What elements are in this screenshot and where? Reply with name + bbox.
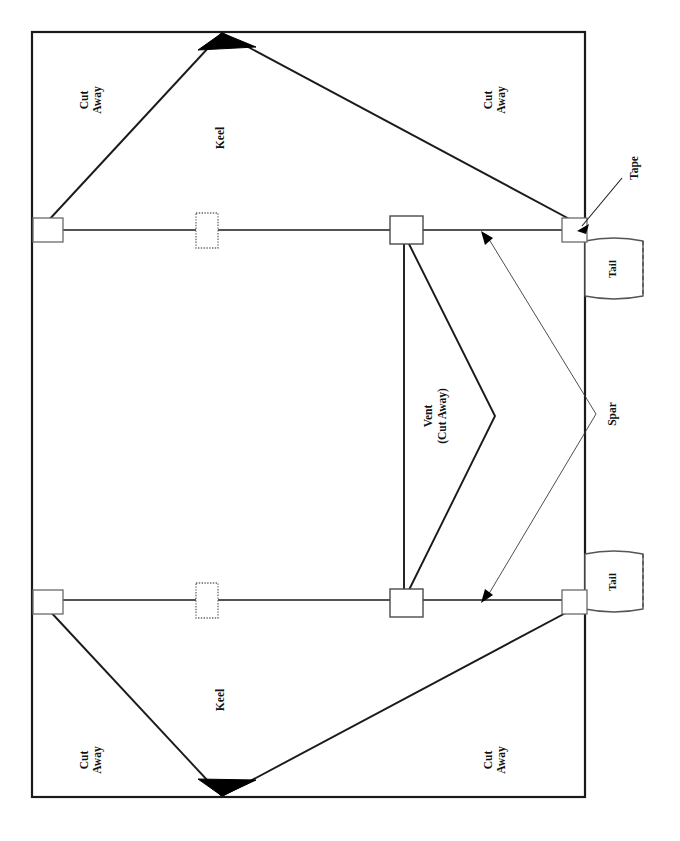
tail-bottom-text: Tail (606, 573, 618, 591)
vent-text-line2: (Cut Away) (436, 388, 449, 444)
page-background (0, 0, 680, 841)
cut-away-top-right-line2: Away (495, 86, 508, 114)
label-keel-bottom: Keel (214, 689, 226, 711)
tape-marker-bottom-right (562, 590, 587, 614)
tape-marker-top-left (33, 218, 63, 242)
kite-plan-diagram: Cut Away Cut Away Cut Away Cut Away Keel… (0, 0, 680, 841)
label-spar: Spar (606, 402, 619, 426)
label-tail-top: Tail (606, 260, 618, 278)
tail-top-text: Tail (606, 260, 618, 278)
keel-top-text: Keel (214, 127, 226, 149)
tape-marker-top-mid (196, 213, 218, 248)
tape-marker-bottom-left (33, 590, 63, 614)
spar-text: Spar (606, 402, 619, 426)
cut-away-bottom-right-line2: Away (495, 746, 508, 774)
tape-marker-bottom-vent (390, 589, 423, 617)
tape-text: Tape (628, 156, 641, 180)
keel-bottom-text: Keel (214, 689, 226, 711)
cut-away-bottom-left-line2: Away (91, 746, 104, 774)
vent-text-line1: Vent (422, 405, 434, 428)
label-keel-top: Keel (214, 127, 226, 149)
cut-away-bottom-left-line1: Cut (78, 751, 90, 770)
cut-away-bottom-right-line1: Cut (482, 751, 494, 770)
tape-marker-top-vent (390, 216, 423, 244)
plan-drawing-canvas: Cut Away Cut Away Cut Away Cut Away Keel… (0, 0, 680, 841)
cut-away-top-right-line1: Cut (482, 91, 494, 110)
cut-away-top-left-line2: Away (91, 86, 104, 114)
label-tape: Tape (628, 156, 641, 180)
cut-away-top-left-line1: Cut (78, 91, 90, 110)
label-tail-bottom: Tail (606, 573, 618, 591)
tape-marker-bottom-mid (196, 583, 218, 618)
